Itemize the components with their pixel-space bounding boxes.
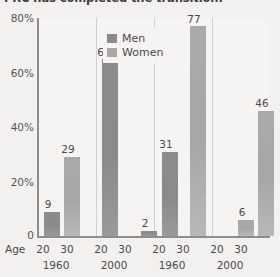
bar-women-30-1960[interactable] (190, 26, 206, 236)
x-tick-age-8: 30 (232, 243, 250, 255)
legend-label-men: Men (122, 33, 145, 44)
bar-value-46: 46 (252, 98, 272, 109)
legend-swatch-men-icon (107, 34, 117, 43)
y-tick-label-60: 60% (0, 68, 34, 78)
bar-value-29: 29 (58, 144, 78, 155)
y-tick-label-40: 40% (0, 122, 34, 132)
legend-item-men[interactable]: Men (107, 31, 163, 45)
x-tick-age-7: 20 (208, 243, 226, 255)
chart-title: PRC has completed the transition. (4, 0, 280, 5)
x-tick-age-5: 20 (150, 243, 168, 255)
x-tick-age-1: 20 (34, 243, 52, 255)
bar-value-77: 77 (184, 14, 204, 25)
x-tick-year-1: 1960 (36, 259, 76, 271)
bar-women-20-2000[interactable] (238, 220, 254, 237)
x-tick-age-4: 30 (116, 243, 134, 255)
bar-value-2: 2 (135, 218, 155, 229)
legend-item-women[interactable]: Women (107, 45, 163, 59)
legend-swatch-women-icon (107, 48, 117, 57)
bar-chart: PRC has completed the transition. 80% 60… (0, 0, 280, 277)
x-axis-age-caption: Age (5, 243, 25, 255)
x-tick-age-6: 30 (174, 243, 192, 255)
bar-men-20-2000[interactable] (141, 231, 157, 237)
x-axis-line (37, 236, 270, 238)
bar-value-9: 9 (38, 199, 58, 210)
bar-value-31: 31 (156, 139, 176, 150)
bar-women-20-1960[interactable] (64, 157, 80, 236)
legend-label-women: Women (122, 47, 163, 58)
bar-men-20-1960[interactable] (44, 212, 60, 237)
legend: Men Women (103, 28, 170, 63)
bar-men-30-2000[interactable] (162, 152, 178, 237)
x-tick-year-2: 2000 (94, 259, 134, 271)
bar-women-30-2000[interactable] (258, 111, 274, 237)
bar-men-30-1960[interactable] (102, 59, 118, 236)
x-tick-age-2: 30 (58, 243, 76, 255)
x-tick-year-4: 2000 (210, 259, 250, 271)
x-tick-age-3: 20 (92, 243, 110, 255)
y-tick-label-0: 0 (0, 230, 34, 240)
x-tick-year-3: 1960 (152, 259, 192, 271)
y-tick-label-20: 20% (0, 177, 34, 187)
bar-value-6: 6 (232, 207, 252, 218)
y-tick-label-80: 80% (0, 13, 34, 23)
